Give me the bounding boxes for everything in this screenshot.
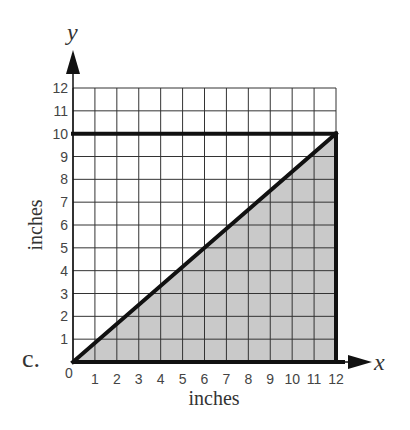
x-tick-label: 6 xyxy=(201,371,209,387)
y-tick-label: 1 xyxy=(60,331,68,347)
y-axis-variable: y xyxy=(65,19,78,45)
x-tick-labels: 0123456789101112 xyxy=(65,365,344,387)
y-tick-label: 9 xyxy=(60,149,68,165)
x-axis-title: inches xyxy=(188,387,239,409)
y-tick-label: 5 xyxy=(60,240,68,256)
part-label: c. xyxy=(22,344,40,373)
x-tick-label: 5 xyxy=(179,371,187,387)
y-tick-label: 6 xyxy=(60,217,68,233)
y-tick-label: 11 xyxy=(53,103,68,119)
y-axis-title: inches xyxy=(24,199,46,250)
y-tick-labels: 123456789101112 xyxy=(52,80,68,347)
chart: 0123456789101112 123456789101112 y x inc… xyxy=(0,0,410,430)
y-tick-label: 10 xyxy=(52,126,68,142)
x-tick-label: 9 xyxy=(266,371,274,387)
x-tick-label: 8 xyxy=(244,371,252,387)
x-axis-arrow-icon xyxy=(348,355,372,369)
x-tick-label: 7 xyxy=(223,371,231,387)
y-tick-label: 7 xyxy=(60,194,68,210)
x-tick-label: 11 xyxy=(307,371,322,387)
y-tick-label: 2 xyxy=(60,308,68,324)
y-tick-label: 8 xyxy=(60,171,68,187)
x-tick-label: 10 xyxy=(284,371,300,387)
x-tick-label: 0 xyxy=(65,365,73,381)
x-tick-label: 3 xyxy=(135,371,143,387)
x-axis-variable: x xyxy=(373,349,385,375)
x-tick-label: 1 xyxy=(91,371,99,387)
x-tick-label: 4 xyxy=(157,371,165,387)
x-tick-label: 12 xyxy=(328,371,344,387)
y-tick-label: 4 xyxy=(60,263,68,279)
y-tick-label: 3 xyxy=(60,286,68,302)
y-axis-arrow-icon xyxy=(66,50,80,74)
x-tick-label: 2 xyxy=(113,371,121,387)
y-tick-label: 12 xyxy=(52,80,68,96)
